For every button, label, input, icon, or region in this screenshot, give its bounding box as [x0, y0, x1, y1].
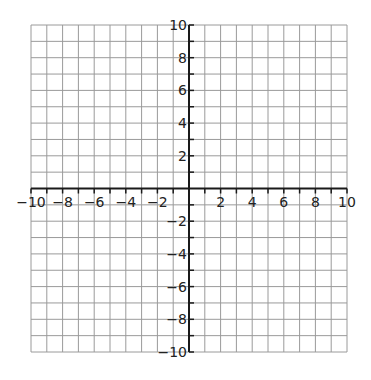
y-tick-label: −4: [166, 246, 187, 262]
x-tick-label: −4: [115, 194, 136, 210]
y-tick-label: 2: [178, 148, 187, 164]
x-tick-label: 10: [338, 194, 356, 210]
y-tick-label: −2: [166, 213, 187, 229]
x-tick-label: 2: [216, 194, 225, 210]
y-tick-label: 10: [169, 17, 187, 33]
x-tick-label: 4: [248, 194, 257, 210]
y-tick-label: 6: [178, 82, 187, 98]
x-tick-label: −2: [147, 194, 168, 210]
x-axis-tick-labels: −10−8−6−4−2246810: [16, 194, 356, 210]
y-tick-label: −8: [166, 311, 187, 327]
y-tick-label: −10: [157, 344, 187, 360]
x-tick-label: −8: [52, 194, 73, 210]
y-tick-label: 8: [178, 50, 187, 66]
y-tick-label: 4: [178, 115, 187, 131]
y-tick-label: −6: [166, 279, 187, 295]
coordinate-plane: −10−8−6−4−2246810 108642−2−4−6−8−10: [0, 0, 371, 380]
x-tick-label: 8: [311, 194, 320, 210]
x-tick-label: −6: [84, 194, 105, 210]
x-tick-label: −10: [16, 194, 46, 210]
x-tick-label: 6: [279, 194, 288, 210]
